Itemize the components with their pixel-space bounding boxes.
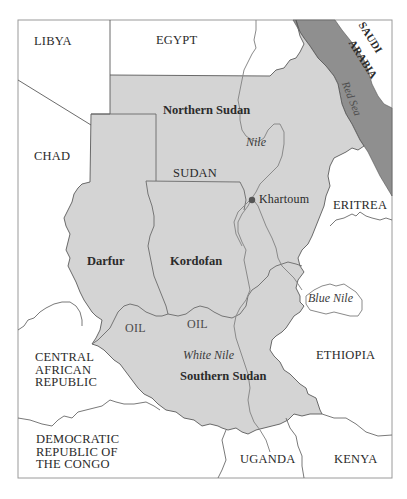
label-uganda: UGANDA bbox=[240, 453, 295, 466]
label-kenya: KENYA bbox=[334, 453, 377, 466]
label-nile: Nile bbox=[246, 136, 266, 148]
label-kordofan: Kordofan bbox=[170, 255, 222, 268]
label-ethiopia: ETHIOPIA bbox=[316, 349, 375, 362]
label-sudan: SUDAN bbox=[173, 167, 217, 180]
label-central-african-republic: CENTRAL AFRICAN REPUBLIC bbox=[35, 351, 97, 389]
car-line3: REPUBLIC bbox=[35, 376, 97, 389]
label-khartoum: Khartoum bbox=[259, 193, 309, 205]
label-blue-nile: Blue Nile bbox=[308, 292, 353, 304]
label-northern-sudan: Northern Sudan bbox=[163, 104, 250, 117]
label-southern-sudan: Southern Sudan bbox=[180, 370, 267, 383]
sudan-map bbox=[0, 0, 407, 499]
label-oil-west: OIL bbox=[125, 322, 146, 334]
drc-line3: THE CONGO bbox=[36, 458, 119, 471]
drc-line1: DEMOCRATIC bbox=[36, 433, 119, 446]
khartoum-city-dot bbox=[249, 197, 255, 203]
label-oil-east: OIL bbox=[187, 318, 208, 330]
label-eritrea: ERITREA bbox=[333, 199, 387, 212]
car-line1: CENTRAL bbox=[35, 351, 97, 364]
label-darfur: Darfur bbox=[87, 255, 125, 268]
label-drc: DEMOCRATIC REPUBLIC OF THE CONGO bbox=[36, 433, 119, 471]
label-libya: LIBYA bbox=[34, 35, 72, 48]
label-chad: CHAD bbox=[34, 150, 70, 163]
label-white-nile: White Nile bbox=[183, 349, 234, 361]
label-egypt: EGYPT bbox=[156, 34, 197, 47]
